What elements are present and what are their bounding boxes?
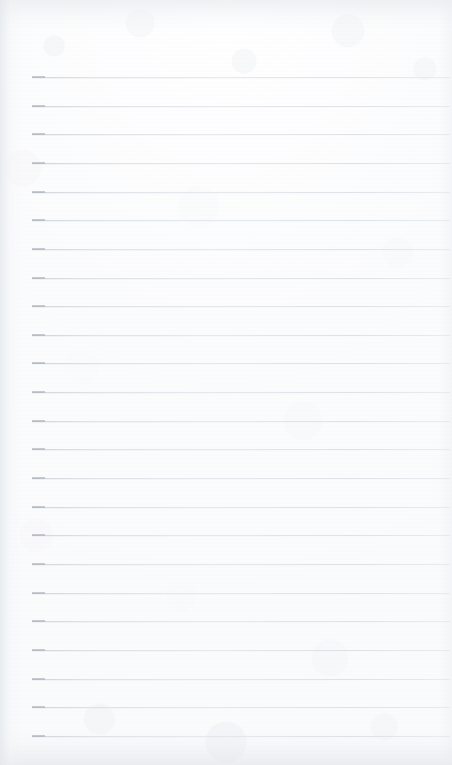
notebook-page xyxy=(0,0,452,765)
ruled-line xyxy=(32,306,450,307)
ruled-line xyxy=(32,335,450,336)
ruled-line xyxy=(32,679,450,680)
ruled-line xyxy=(32,478,450,479)
ruled-line xyxy=(32,449,450,450)
ruled-line xyxy=(32,106,450,107)
ruled-line xyxy=(32,392,450,393)
ruled-line xyxy=(32,593,450,594)
ruled-line xyxy=(32,163,450,164)
ruled-line xyxy=(32,134,450,135)
ruled-line xyxy=(32,77,450,78)
ruled-line xyxy=(32,507,450,508)
ruled-line xyxy=(32,192,450,193)
ruled-lines-group xyxy=(0,0,452,765)
ruled-line xyxy=(32,650,450,651)
ruled-line xyxy=(32,736,450,737)
ruled-line xyxy=(32,535,450,536)
ruled-line xyxy=(32,220,450,221)
ruled-line xyxy=(32,363,450,364)
ruled-line xyxy=(32,707,450,708)
ruled-line xyxy=(32,421,450,422)
ruled-line xyxy=(32,249,450,250)
ruled-line xyxy=(32,621,450,622)
ruled-line xyxy=(32,564,450,565)
ruled-line xyxy=(32,278,450,279)
